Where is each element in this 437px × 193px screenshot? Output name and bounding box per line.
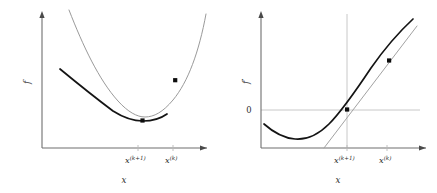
right-zero-tick-label: 0 [246,105,251,115]
left-marker-xk [173,78,177,82]
right-y-axis-label: f′ [241,79,251,85]
right-xtick-label-1: x(k+1) [334,155,355,165]
right-derivative-curve [264,19,413,139]
left-xtick-label-1-sup: (k+1) [130,155,146,161]
left-y-axis-label: f [22,79,32,85]
right-x-axis-label: x [336,175,341,185]
left-xtick-label-2-sup: (k) [170,155,178,161]
right-marker-xk1 [345,107,349,111]
left-x-axis-arrow-icon [200,145,207,150]
left-marker-xk1 [140,118,144,122]
right-marker-xk [387,58,391,62]
panel-left: f x(k+1) x(k) x [0,0,218,193]
panel-right: f′ 0 x(k+1) x(k) x [219,0,437,193]
right-y-axis-arrow-icon [258,11,263,18]
right-x-axis-arrow-icon [419,145,426,150]
right-plot-svg: f′ 0 x(k+1) x(k) x [219,0,437,193]
left-quadratic-model-curve [69,10,206,117]
left-xtick-label-1: x(k+1) [125,155,146,165]
left-xtick-label-2: x(k) [165,155,177,165]
figure-canvas: f x(k+1) x(k) x [0,0,437,193]
left-x-axis-label: x [122,175,127,185]
right-xtick-label-2: x(k) [379,155,391,165]
right-tangent-line [324,26,417,148]
left-y-axis-arrow-icon [39,11,44,18]
left-plot-svg: f x(k+1) x(k) x [0,0,218,193]
right-xtick-label-2-sup: (k) [384,155,392,161]
right-xtick-label-1-sup: (k+1) [339,155,355,161]
